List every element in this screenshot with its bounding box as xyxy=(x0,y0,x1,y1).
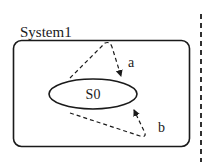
system-label: System1 xyxy=(20,24,72,40)
transition-a-arrow xyxy=(70,43,121,79)
transition-b-arrow xyxy=(70,110,145,137)
transition-a[interactable]: a xyxy=(70,43,135,79)
transition-b-label: b xyxy=(158,120,165,135)
diagram-canvas: System1 S0 a b xyxy=(0,0,215,167)
transition-a-label: a xyxy=(128,55,135,70)
transition-b[interactable]: b xyxy=(70,110,165,137)
state-s0[interactable]: S0 xyxy=(49,79,137,109)
state-label: S0 xyxy=(86,87,101,102)
